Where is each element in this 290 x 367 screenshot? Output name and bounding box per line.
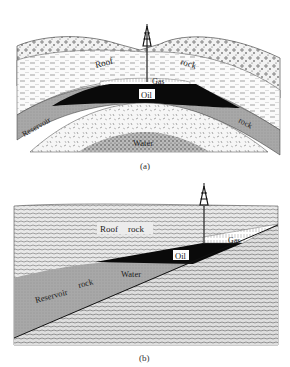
label-roof-b: Roof bbox=[100, 224, 118, 234]
label-gas-b: Gas bbox=[228, 236, 240, 245]
label-gas-a: Gas bbox=[152, 77, 164, 86]
label-roof-rock-b: rock bbox=[128, 224, 144, 234]
label-oil-a: Oil bbox=[141, 90, 153, 100]
figure-b-wedge-trap: Roof rock Gas Oil Water Reservoir rock (… bbox=[14, 183, 278, 363]
label-water-b: Water bbox=[121, 269, 141, 279]
oil-trap-figure: Roof rock Gas Oil Reservoir rock Water (… bbox=[0, 0, 290, 367]
caption-a: (a) bbox=[140, 161, 150, 171]
label-oil-b: Oil bbox=[175, 251, 187, 261]
figure-a-anticline: Roof rock Gas Oil Reservoir rock Water (… bbox=[17, 24, 280, 171]
label-water-a: Water bbox=[133, 138, 153, 148]
caption-b: (b) bbox=[139, 353, 150, 363]
